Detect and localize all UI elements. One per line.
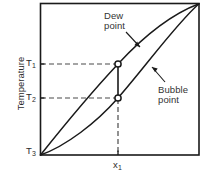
x-tick-label-x1-sub: 1 [118, 164, 122, 171]
phase-diagram-figure: Temperature Dewpoint Bubblepoint T1 T2 T… [0, 0, 208, 177]
dew-point-label: Dewpoint [104, 11, 125, 32]
x-tick-label-x1: x1 [113, 160, 122, 170]
y-tick-label-t2-sub: 2 [32, 96, 36, 103]
y-tick-label-t3: T3 [26, 146, 36, 156]
bubble-point-label: Bubblepoint [158, 85, 188, 106]
y-tick-label-t1: T1 [26, 58, 36, 68]
bubble-point-label-line2: point [158, 94, 179, 105]
dew-point-marker [115, 61, 121, 67]
y-tick-label-t2: T2 [26, 92, 36, 102]
dew-point-label-line2: point [104, 20, 125, 31]
bubble-point-marker [115, 95, 121, 101]
y-tick-label-t1-sub: 1 [32, 62, 36, 69]
y-tick-label-t3-sub: 3 [32, 150, 36, 157]
y-axis-title: Temperature [15, 47, 26, 121]
